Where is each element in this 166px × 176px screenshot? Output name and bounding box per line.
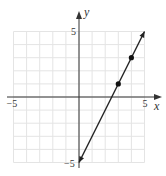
coordinate-plane: −5 5 5 −5 x y — [0, 0, 166, 176]
axes — [7, 11, 162, 168]
x-axis-label: x — [153, 99, 160, 113]
x-tick-label-neg5: −5 — [7, 98, 18, 109]
data-point — [129, 55, 134, 60]
y-tick-label-neg5: −5 — [64, 158, 75, 169]
x-tick-label-5: 5 — [143, 98, 148, 109]
y-axis-arrow-icon — [76, 11, 82, 19]
y-tick-label-5: 5 — [71, 26, 76, 37]
data-point — [116, 81, 121, 86]
y-axis-label: y — [83, 5, 90, 19]
